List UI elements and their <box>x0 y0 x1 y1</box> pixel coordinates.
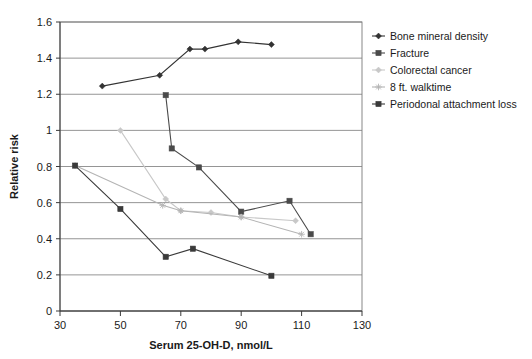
y-tick-label: 0.2 <box>37 269 52 281</box>
legend-item-4[interactable]: Periodonal attachment loss <box>372 98 517 110</box>
legend-item-label: Bone mineral density <box>390 30 489 42</box>
x-tick-label: 50 <box>114 319 126 331</box>
data-point-marker <box>202 46 208 52</box>
data-point-marker <box>99 83 105 89</box>
y-axis-title: Relative risk <box>8 133 20 199</box>
series-1 <box>163 93 313 237</box>
gridlines-group <box>60 22 362 311</box>
x-tick-label: 70 <box>175 319 187 331</box>
relative-risk-line-chart: 00.20.40.60.811.21.41.6 30507090110130 R… <box>0 0 532 359</box>
x-tick-label: 130 <box>353 319 371 331</box>
data-point-marker <box>293 218 299 224</box>
x-tick-label: 30 <box>54 319 66 331</box>
y-tick-label: 0 <box>46 305 52 317</box>
y-tick-label: 1.4 <box>37 52 52 64</box>
series-3 <box>72 162 305 237</box>
data-point-marker <box>376 50 381 55</box>
series-line <box>166 95 311 234</box>
data-point-marker <box>287 198 292 203</box>
data-point-marker <box>375 84 382 91</box>
legend-item-label: Fracture <box>390 47 429 59</box>
data-point-marker <box>73 163 78 168</box>
x-axis-title: Serum 25-OH-D, nmol/L <box>149 339 273 351</box>
series-line <box>102 42 271 86</box>
data-point-marker <box>376 33 382 39</box>
chart-legend: Bone mineral densityFractureColorectal c… <box>372 30 517 110</box>
series-2 <box>117 127 298 223</box>
legend-item-label: 8 ft. walktime <box>390 81 451 93</box>
y-tick-label: 1 <box>46 124 52 136</box>
legend-item-label: Periodonal attachment loss <box>390 98 517 110</box>
data-point-marker <box>308 232 313 237</box>
data-point-marker <box>235 39 241 45</box>
data-point-marker <box>163 93 168 98</box>
data-point-marker <box>268 42 274 48</box>
y-tick-label: 1.6 <box>37 16 52 28</box>
data-point-marker <box>298 231 305 238</box>
y-tick-label: 0.4 <box>37 233 52 245</box>
data-point-marker <box>159 202 166 209</box>
data-point-marker <box>376 67 382 73</box>
figure-container: 00.20.40.60.811.21.41.6 30507090110130 R… <box>0 0 532 359</box>
series-4 <box>73 163 275 278</box>
data-point-marker <box>163 254 168 259</box>
data-point-marker <box>190 246 195 251</box>
data-point-marker <box>117 127 123 133</box>
x-axis-group: 30507090110130 <box>54 311 371 331</box>
x-tick-label: 90 <box>235 319 247 331</box>
series-line <box>75 166 271 276</box>
y-axis-group: 00.20.40.60.811.21.41.6 <box>37 16 60 317</box>
series-group <box>72 39 313 279</box>
y-tick-label: 0.8 <box>37 161 52 173</box>
data-point-marker <box>376 101 381 106</box>
y-tick-label: 0.6 <box>37 197 52 209</box>
series-line <box>75 166 302 235</box>
legend-item-2[interactable]: Colorectal cancer <box>372 64 472 76</box>
data-point-marker <box>239 209 244 214</box>
x-tick-label: 110 <box>293 319 311 331</box>
data-point-marker <box>196 165 201 170</box>
series-0 <box>99 39 274 89</box>
data-point-marker <box>118 206 123 211</box>
data-point-marker <box>269 273 274 278</box>
data-point-marker <box>169 146 174 151</box>
legend-item-1[interactable]: Fracture <box>372 47 429 59</box>
series-line <box>120 130 295 220</box>
legend-item-0[interactable]: Bone mineral density <box>372 30 489 42</box>
legend-item-3[interactable]: 8 ft. walktime <box>372 81 451 93</box>
data-point-marker <box>178 207 185 214</box>
legend-item-label: Colorectal cancer <box>390 64 472 76</box>
data-point-marker <box>238 214 245 221</box>
y-tick-label: 1.2 <box>37 88 52 100</box>
